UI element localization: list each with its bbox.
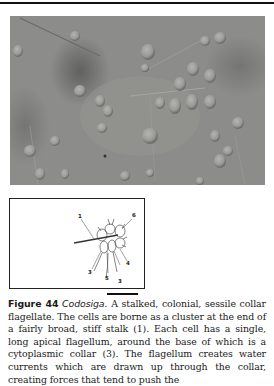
label-5: 5 [105,275,109,281]
scale-bar [107,293,138,295]
genus-name: Codosiga [62,298,104,309]
label-3b: 3 [118,278,122,284]
micrograph-photo [10,16,265,185]
top-rule [0,2,274,4]
figure-caption: Figure 44 Codosiga. A stalked, colonial,… [8,298,266,386]
codosiga-diagram: 1 6 4 3 5 3 [9,198,145,289]
label-3a: 3 [88,269,92,275]
figure-label: Figure 44 [8,298,58,309]
label-1: 1 [78,213,82,219]
label-4: 4 [126,260,130,266]
label-6: 6 [132,212,136,218]
caption-body: . A stalked, colonial, sessile collar fl… [8,298,266,385]
